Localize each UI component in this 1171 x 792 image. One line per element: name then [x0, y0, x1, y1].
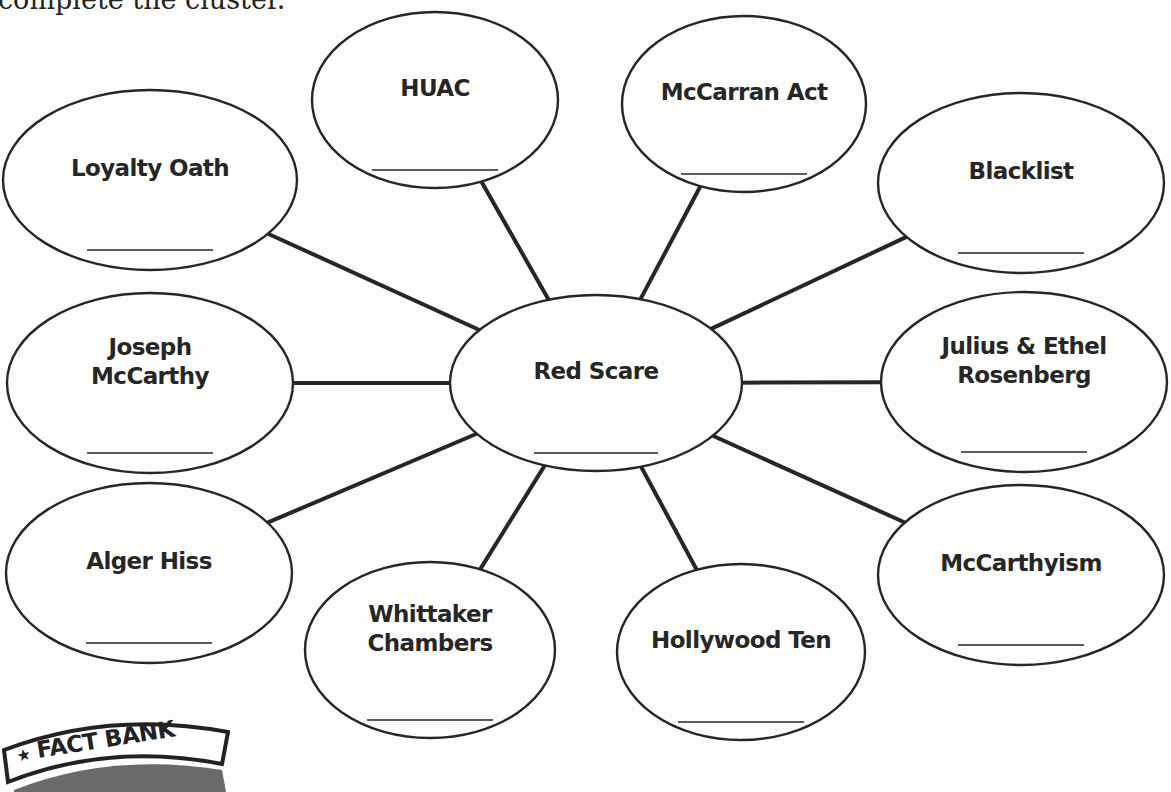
node-blacklist: Blacklist	[878, 93, 1164, 273]
node-label: Blacklist	[969, 158, 1075, 184]
node-red-scare: Red Scare	[450, 295, 742, 471]
node-label: Alger Hiss	[86, 548, 212, 574]
fact-bank-banner: ★ FACT BANK	[0, 712, 245, 792]
node-joseph-mccarthy: JosephMcCarthy	[7, 293, 293, 473]
connector-alger-hiss	[268, 434, 477, 523]
node-alger-hiss: Alger Hiss	[6, 483, 292, 663]
node-label: Loyalty Oath	[71, 155, 229, 181]
connector-loyalty-oath	[268, 234, 480, 330]
node-label: McCarthyism	[940, 550, 1102, 576]
node-label: Hollywood Ten	[651, 627, 831, 653]
node-huac: HUAC	[312, 12, 558, 188]
connector-blacklist	[711, 237, 906, 329]
node-label: Joseph	[107, 334, 192, 360]
connector-mccarthyism	[713, 436, 905, 523]
node-mccarthyism: McCarthyism	[878, 485, 1164, 665]
node-label: Julius & Ethel	[940, 333, 1107, 359]
node-label: Red Scare	[533, 358, 658, 384]
node-label: McCarran Act	[661, 79, 828, 105]
node-loyalty-oath: Loyalty Oath	[3, 90, 297, 270]
connector-mccarran-act	[640, 186, 700, 299]
ellipses: Red ScareLoyalty OathHUACMcCarran ActBla…	[3, 12, 1167, 740]
node-label: HUAC	[400, 75, 470, 101]
node-label: McCarthy	[91, 363, 209, 389]
connector-hollywood-ten	[641, 467, 697, 570]
node-julius-ethel-rosenberg: Julius & EthelRosenberg	[881, 292, 1167, 472]
connector-whittaker-chambers	[480, 465, 545, 569]
node-whittaker-chambers: WhittakerChambers	[305, 562, 555, 738]
node-label: Rosenberg	[957, 362, 1091, 388]
node-label: Chambers	[367, 630, 492, 656]
node-hollywood-ten: Hollywood Ten	[617, 564, 865, 740]
connector-huac	[481, 182, 548, 300]
node-mccarran-act: McCarran Act	[622, 16, 866, 192]
node-label: Whittaker	[368, 601, 493, 627]
